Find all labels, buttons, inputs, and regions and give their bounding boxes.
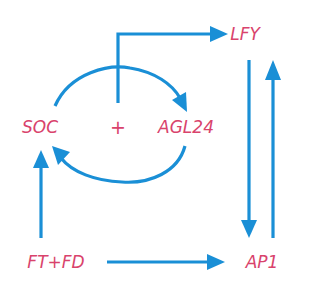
node-soc: SOC [22, 117, 58, 137]
node-agl24: AGL24 [157, 117, 214, 137]
node-ft-fd: FT+FD [27, 252, 84, 272]
edge-complex-to-lfy [118, 26, 228, 103]
arrowhead-icon [52, 146, 70, 165]
edge-agl24-to-soc [52, 146, 185, 182]
arrowhead-icon [265, 60, 281, 80]
edge-ap1-to-lfy [265, 60, 281, 238]
node-ap1: AP1 [245, 252, 279, 272]
arrowhead-icon [210, 26, 228, 42]
node-lfy: LFY [230, 24, 261, 44]
arrowhead-icon [241, 220, 257, 238]
arrowhead-icon [207, 254, 225, 270]
edge-lfy-to-ap1 [241, 60, 257, 238]
edge-ftfd-to-soc [33, 150, 49, 238]
edge-ftfd-to-ap1 [107, 254, 225, 270]
edge-soc-to-agl24 [55, 67, 187, 112]
regulatory-diagram: LFY SOC + AGL24 FT+FD AP1 [0, 0, 313, 293]
node-plus: + [110, 116, 126, 138]
arrowhead-icon [33, 150, 49, 168]
